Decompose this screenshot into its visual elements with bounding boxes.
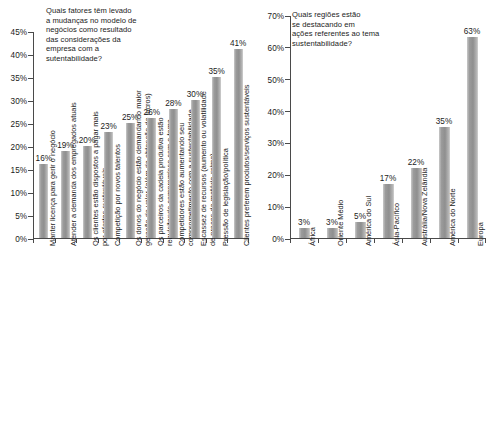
y-axis-tick (28, 147, 33, 148)
bar (212, 77, 221, 238)
x-axis-tick (318, 239, 319, 243)
y-axis-label: 40% (268, 107, 284, 116)
y-axis-tick (28, 101, 33, 102)
y-axis-label: 45% (11, 28, 27, 37)
bar (467, 37, 478, 238)
y-axis-label: 20% (268, 171, 284, 180)
plot-area-left: 0%5%10%15%20%25%30%35%40%45%16%Manter li… (33, 32, 249, 239)
x-axis-tick (485, 239, 486, 243)
x-axis-tick (290, 239, 291, 243)
y-axis-label: 15% (11, 166, 27, 175)
y-axis-line-left (33, 32, 34, 239)
x-axis-tick (33, 239, 34, 243)
y-axis-label: 70% (268, 12, 284, 21)
y-axis-tick (285, 79, 290, 80)
y-axis-tick (285, 47, 290, 48)
y-axis-tick (28, 124, 33, 125)
y-axis-label: 35% (11, 74, 27, 83)
x-axis-tick (206, 239, 207, 243)
y-axis-tick (285, 143, 290, 144)
x-axis-category-label: Austrália/Nova Zelândia (421, 126, 430, 246)
x-axis-tick (55, 239, 56, 243)
bar (147, 118, 156, 238)
x-axis-category-label: Europa (477, 126, 486, 246)
x-axis-tick (141, 239, 142, 243)
chart-panel-right: Quais regiões estão se destacando em açõ… (248, 0, 492, 434)
y-axis-tick (285, 16, 290, 17)
y-axis-label: 5% (15, 212, 27, 221)
y-axis-tick (28, 193, 33, 194)
y-axis-label: 60% (268, 43, 284, 52)
y-axis-tick (285, 111, 290, 112)
y-axis-tick (28, 32, 33, 33)
x-axis-category-label: Oriente Médio (337, 126, 346, 246)
y-axis-label: 10% (268, 203, 284, 212)
y-axis-label: 30% (268, 139, 284, 148)
x-axis-category-label: Ásia-Pacífico (393, 126, 402, 246)
x-axis-category-label: Atender a demanda dos empregados atuais (70, 56, 79, 246)
x-axis-tick (374, 239, 375, 243)
y-axis-label: 0% (15, 235, 27, 244)
x-axis-category-label: América do Sul (365, 126, 374, 246)
plot-area-right: 0%10%20%30%40%50%60%70%3%África3%Oriente… (290, 16, 486, 239)
x-axis-tick (402, 239, 403, 243)
x-axis-tick (430, 239, 431, 243)
y-axis-label: 50% (268, 75, 284, 84)
y-axis-tick (28, 170, 33, 171)
y-axis-tick (285, 207, 290, 208)
y-axis-label: 0% (272, 235, 284, 244)
bar-value-label: 63% (464, 27, 480, 36)
y-axis-tick (285, 175, 290, 176)
chart-panel-left: Quais fatores têm levado a mudanças no m… (0, 0, 250, 434)
y-axis-line-right (290, 16, 291, 239)
y-axis-tick (28, 216, 33, 217)
x-axis-tick (346, 239, 347, 243)
y-axis-label: 25% (11, 120, 27, 129)
x-axis-tick (184, 239, 185, 243)
bar (104, 132, 113, 238)
x-axis-tick (98, 239, 99, 243)
y-axis-tick (28, 78, 33, 79)
x-axis-category-label: Pressão de legislação/política (222, 56, 231, 246)
y-axis-label: 10% (11, 189, 27, 198)
y-axis-tick (28, 55, 33, 56)
y-axis-label: 20% (11, 143, 27, 152)
y-axis-label: 30% (11, 97, 27, 106)
bar-value-label: 41% (230, 39, 246, 48)
x-axis-tick (227, 239, 228, 243)
x-axis-category-label: Competição por novos talentos (114, 56, 123, 246)
x-axis-tick (458, 239, 459, 243)
bar (39, 164, 48, 238)
x-axis-category-label: Manter licença para gerir o negócio (49, 56, 58, 246)
x-axis-tick (76, 239, 77, 243)
x-axis-tick (163, 239, 164, 243)
bar-value-label: 35% (436, 117, 452, 126)
x-axis-category-label: África (309, 126, 318, 246)
x-axis-tick (119, 239, 120, 243)
y-axis-label: 40% (11, 51, 27, 60)
x-axis-category-label: América do Norte (449, 126, 458, 246)
